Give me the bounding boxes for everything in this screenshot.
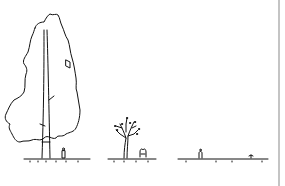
seedling-scene	[178, 149, 268, 162]
illustration-canvas	[0, 0, 285, 186]
vertical-divider	[278, 0, 280, 186]
young-tree	[108, 117, 156, 162]
mature-tree	[5, 14, 90, 162]
tree-growth-drawing	[0, 0, 285, 186]
